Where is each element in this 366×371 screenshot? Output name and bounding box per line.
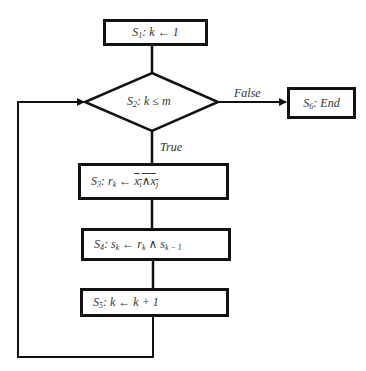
s3-label: S3: rk ← xi∧xj [91,174,158,189]
edge-label-true: True [160,140,182,155]
edge-label-false: False [234,86,261,101]
terminal-box-s6: S6: End [287,87,356,119]
process-box-s4: S4: sk ← rk ∧ sk − 1 [81,228,231,261]
s1-label: S1: k ← 1 [132,25,178,40]
decision-label-s2: S2: k ≤ m [127,94,171,109]
process-box-s3: S3: rk ← xi∧xj [78,163,229,200]
s5-label: S5: k ← k + 1 [93,295,159,310]
nand-expression: xi∧xj [134,174,158,188]
process-box-s5: S5: k ← k + 1 [80,288,229,317]
process-box-s1: S1: k ← 1 [103,19,208,46]
s4-label: S4: sk ← rk ∧ sk − 1 [94,237,182,252]
s6-label: S6: End [303,96,339,111]
